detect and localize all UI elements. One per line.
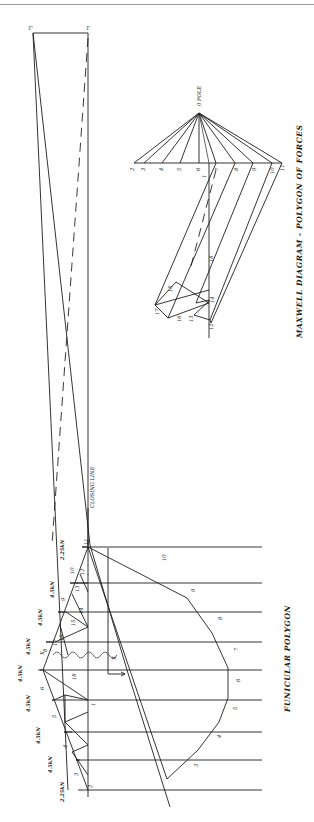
mx-point-10: 10: [269, 167, 275, 174]
maxwell-interior-point-labels: 1 12 13 14 15 16 17 18: [154, 175, 215, 330]
section-mark-x-1: X: [39, 651, 45, 656]
funicular-polygon-title: FUNICULAR POLYGON: [283, 604, 292, 713]
mx-point-8: 8: [233, 167, 239, 171]
member-18: 18: [71, 673, 77, 680]
mx-point-18: 18: [208, 255, 214, 262]
funicular-seg-5: 5: [232, 707, 238, 710]
mx-point-1: 1: [201, 175, 207, 178]
funicular-polygon-curve: [88, 547, 228, 779]
closing-line-label: CLOSING LINE: [89, 466, 95, 508]
load-label-9: 4.5kN: [37, 609, 43, 626]
mx-point-17: 17: [154, 308, 160, 315]
mx-point-4: 4: [158, 168, 164, 172]
member-5: 5: [51, 715, 57, 718]
load-label-4: 4.5kN: [35, 727, 41, 744]
member-14: 14: [78, 607, 84, 614]
member-4: 4: [62, 745, 68, 749]
member-1: 1: [90, 703, 96, 706]
mx-point-6: 6: [195, 167, 201, 171]
mx-point-7: 7: [214, 167, 220, 171]
load-label-5: 4.5kN: [25, 695, 31, 712]
load-label-3: 4.5kN: [47, 756, 53, 773]
section-mark-x-2: X: [111, 656, 117, 661]
funicular-seg-6: 6: [235, 678, 241, 682]
structural-drawing: T' T 0 POLE: [0, 0, 314, 822]
load-arrows: [38, 547, 88, 760]
point-t-prime-label: T': [28, 25, 33, 31]
mx-point-9: 9: [251, 167, 257, 171]
maxwell-load-point-labels: 2 3 4 5 6 7 8 9 10 11: [129, 164, 285, 174]
funicular-segment-labels: 3 4 5 6 7 8 9 10: [161, 554, 241, 767]
member-9: 9: [60, 597, 66, 601]
load-label-2: 2.25kN: [59, 781, 65, 803]
funicular-seg-8: 8: [217, 616, 223, 620]
mx-point-3: 3: [140, 167, 146, 171]
node-label-2: 2: [87, 785, 93, 789]
member-13: 13: [74, 585, 80, 592]
mx-point-12: 12: [208, 323, 214, 330]
load-label-10: 4.5kN: [49, 581, 55, 598]
mx-point-16: 16: [176, 315, 182, 322]
funicular-seg-3: 3: [193, 763, 199, 767]
member-6: 6: [39, 686, 45, 690]
mx-point-13: 13: [188, 315, 194, 322]
mx-point-2: 2: [129, 168, 135, 172]
funicular-seg-9: 9: [190, 588, 196, 592]
mx-point-15: 15: [167, 285, 173, 292]
mx-point-14: 14: [209, 296, 215, 303]
pole-label: 0 POLE: [196, 86, 202, 106]
maxwell-diagram: 0 POLE 2 3 4 5 6 7 8 9 10 11 1 12 13 14 …: [129, 86, 304, 339]
funicular-seg-10: 10: [161, 554, 167, 561]
member-17: 17: [52, 639, 58, 646]
load-label-8: 4.5kN: [25, 638, 31, 655]
funicular-seg-7: 7: [233, 647, 239, 651]
member-12: 12: [79, 568, 85, 575]
mx-point-5: 5: [176, 168, 182, 171]
closing-triangle: T' T: [28, 25, 90, 790]
member-16: 16: [58, 634, 64, 641]
member-15: 15: [70, 619, 76, 626]
funicular-seg-4: 4: [216, 735, 222, 739]
truss-and-funicular: 2.25kN 4.5kN 4.5kN 4.5kN 4.5kN 4.5kN 4.5…: [17, 466, 292, 807]
member-10: 10: [69, 567, 75, 574]
load-label-6: 4.5kN: [17, 665, 23, 682]
point-t-label: T: [86, 25, 90, 31]
load-label-11: 2.25kN: [59, 539, 65, 561]
member-3: 3: [73, 772, 79, 776]
maxwell-diagram-title: MAXWELL DIAGRAM - POLYGON OF FORCES: [295, 124, 304, 339]
mx-point-11: 11: [279, 164, 285, 171]
